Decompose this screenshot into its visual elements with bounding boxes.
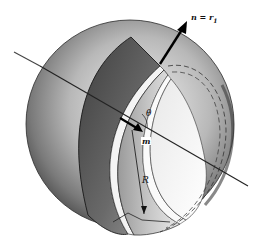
normal-vector-label: n = r1 [190,13,219,24]
sphere-diagram: n = r1 θ m R [0,0,258,247]
axis-line-left [14,52,40,66]
normal-label-text: n = r [191,12,213,22]
sphere-drawing [0,0,258,247]
unit-vector-m-label: m [141,137,151,145]
normal-label-subscript: 1 [213,17,217,24]
radius-label: R [142,176,149,185]
angle-theta-label: θ [146,109,151,118]
